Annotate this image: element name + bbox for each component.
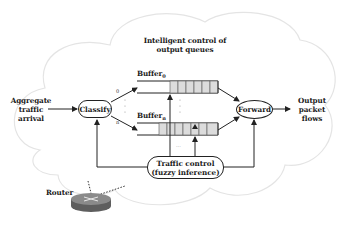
output-line-3: flows xyxy=(290,114,334,123)
buffer-0-queue xyxy=(137,81,218,93)
buffer-n-queue xyxy=(137,123,218,135)
arrow-buffer0-to-forward xyxy=(218,88,239,101)
output-line-1: Output xyxy=(290,96,334,105)
arrow-classify-to-buffern xyxy=(111,116,137,130)
traffic-control-node: Traffic control (fuzzy inference) xyxy=(147,156,224,179)
diagram-title: Intelligent control of output queues xyxy=(130,36,240,54)
control-ellipsis: ... xyxy=(176,142,181,148)
title-line-1: Intelligent control of xyxy=(130,36,240,45)
branch-label-n: n xyxy=(116,119,119,125)
branch-label-0: 0 xyxy=(116,88,119,94)
diagram-canvas: Intelligent control of output queues Agg… xyxy=(0,0,341,230)
traffic-control-line-2: (fuzzy inference) xyxy=(151,168,219,177)
buffer-n-name: Buffer xyxy=(137,111,162,120)
input-line-3: arrival xyxy=(2,114,60,123)
output-line-2: packet xyxy=(290,105,334,114)
buffer-0-name: Buffer xyxy=(137,69,162,78)
input-line-2: traffic xyxy=(2,105,60,114)
router-icon xyxy=(71,193,111,212)
input-line-1: Aggregate xyxy=(2,96,60,105)
output-label: Output packet flows xyxy=(290,96,334,123)
buffer-n-label: Buffern xyxy=(137,111,166,123)
input-label: Aggregate traffic arrival xyxy=(2,96,60,123)
classify-node: Classify xyxy=(78,100,112,118)
buffer-n-subscript: n xyxy=(162,115,166,121)
buffer-0-label: Buffer0 xyxy=(137,69,166,81)
traffic-control-line-1: Traffic control xyxy=(157,159,215,168)
arrow-buffern-to-forward xyxy=(218,117,239,130)
buffer-0-subscript: 0 xyxy=(162,73,165,79)
forward-node: Forward xyxy=(236,100,273,119)
router-label: Router xyxy=(46,188,73,197)
title-line-2: output queues xyxy=(130,45,240,54)
arrow-classify-to-buffer0 xyxy=(111,88,137,102)
